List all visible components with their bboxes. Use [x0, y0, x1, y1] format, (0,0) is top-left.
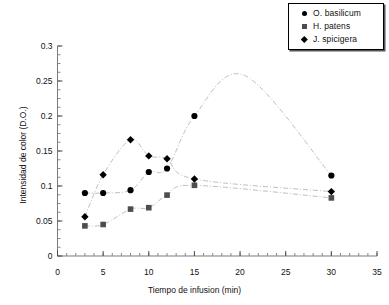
y-axis-tick-label: 0.2: [19, 111, 53, 121]
data-point-square: [192, 183, 198, 189]
x-axis-tick-label: 20: [228, 267, 252, 277]
y-axis-tick-label: 0.15: [19, 146, 53, 156]
x-axis-tick-label: 30: [319, 267, 343, 277]
data-point-square: [100, 222, 106, 228]
x-axis-tick-label: 15: [182, 267, 206, 277]
x-axis-tick-label: 10: [137, 267, 161, 277]
chart-figure: O. basilicum H. patens J. spicigera Inte…: [0, 0, 389, 305]
x-axis-tick-label: 5: [91, 267, 115, 277]
data-point-diamond: [191, 175, 198, 182]
data-point-diamond: [163, 155, 170, 162]
plot-area: [0, 0, 389, 305]
data-point-circle: [328, 172, 334, 178]
x-axis-tick-label: 0: [46, 267, 70, 277]
data-point-circle: [146, 169, 152, 175]
x-axis-tick-label: 35: [365, 267, 389, 277]
data-point-square: [329, 195, 335, 201]
data-point-diamond: [99, 171, 106, 178]
data-point-square: [164, 192, 170, 198]
y-axis-tick-label: 0.3: [19, 41, 53, 51]
series-line-2: [85, 139, 331, 216]
x-axis-tick-label: 25: [274, 267, 298, 277]
data-point-circle: [164, 165, 170, 171]
data-point-circle: [100, 190, 106, 196]
y-axis-tick-label: 0.05: [19, 216, 53, 226]
data-point-square: [82, 223, 88, 229]
y-axis-tick-label: 0.1: [19, 181, 53, 191]
data-point-circle: [127, 187, 133, 193]
data-point-diamond: [127, 136, 134, 143]
data-point-square: [146, 205, 152, 211]
series-line-0: [85, 74, 331, 194]
y-axis-tick-label: 0: [19, 251, 53, 261]
data-point-diamond: [81, 213, 88, 220]
data-point-square: [128, 206, 134, 212]
y-axis-tick-label: 0.25: [19, 76, 53, 86]
data-point-diamond: [328, 188, 335, 195]
data-point-circle: [82, 190, 88, 196]
data-point-circle: [191, 113, 197, 119]
series-line-1: [85, 185, 331, 226]
